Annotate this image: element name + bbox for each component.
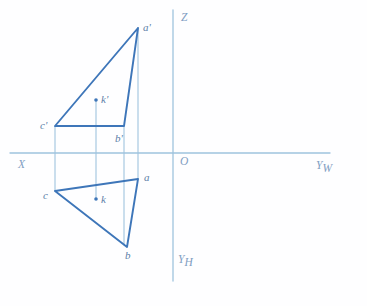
projection-drawing: a' c' b' k' a c b k X O Z YW YH [0, 0, 367, 306]
label-z-axis: Z [181, 11, 188, 23]
label-b-prime: b' [115, 132, 124, 144]
label-x-axis: X [17, 158, 26, 170]
projector-lines-group [55, 28, 138, 245]
label-yh-subscript: H [183, 256, 193, 268]
label-c-prime: c' [40, 119, 48, 131]
drawing-canvas: a' c' b' k' a c b k X O Z YW YH [0, 0, 367, 306]
axis-labels-group: X O Z YW YH [17, 11, 333, 268]
k-prime-dot [94, 98, 98, 102]
axis-group [10, 10, 330, 281]
label-yh-axis: YH [178, 253, 193, 268]
label-a: a [144, 171, 150, 183]
label-c: c [43, 189, 48, 201]
label-a-prime: a' [143, 21, 152, 33]
label-b: b [125, 249, 131, 261]
label-yw-axis: YW [316, 159, 333, 174]
label-origin: O [180, 155, 189, 167]
label-yw-subscript: W [322, 162, 333, 174]
label-k-prime: k' [101, 93, 109, 105]
k-dot [94, 197, 98, 201]
label-k: k [101, 193, 107, 205]
